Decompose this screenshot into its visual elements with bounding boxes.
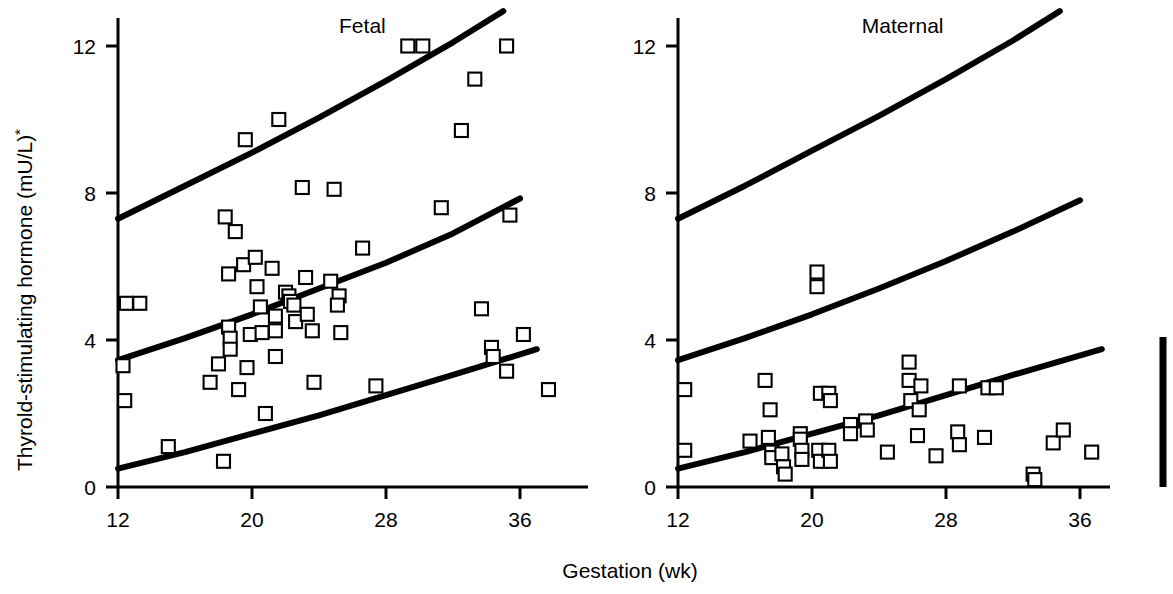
data-point — [269, 310, 282, 323]
tsh-gestation-figure: 0481212202836Fetal0481212202836MaternalT… — [0, 0, 1173, 594]
y-tick-label-fetal-8: 8 — [84, 182, 96, 205]
data-point — [229, 225, 242, 238]
data-point — [517, 328, 530, 341]
data-point — [256, 326, 269, 339]
data-point — [542, 383, 555, 396]
y-tick-label-maternal-12: 12 — [633, 35, 656, 58]
data-point — [911, 429, 924, 442]
median-reference-curve-maternal — [678, 200, 1080, 360]
data-point — [764, 403, 777, 416]
data-point — [678, 383, 691, 396]
data-point — [266, 262, 279, 275]
data-point — [824, 394, 837, 407]
data-points-fetal — [117, 40, 556, 468]
data-point — [296, 181, 309, 194]
data-point — [249, 251, 262, 264]
y-tick-label-fetal-12: 12 — [73, 35, 96, 58]
panel-maternal: 0481212202836Maternal — [633, 11, 1110, 531]
upper-reference-curve-maternal — [678, 11, 1060, 219]
data-point — [475, 302, 488, 315]
x-tick-label-fetal-12: 12 — [106, 508, 129, 531]
data-point — [117, 359, 130, 372]
data-point — [241, 361, 254, 374]
y-tick-label-fetal-4: 4 — [84, 329, 96, 352]
data-point — [334, 326, 347, 339]
data-point — [324, 275, 337, 288]
x-tick-label-maternal-36: 36 — [1068, 508, 1091, 531]
data-point — [762, 431, 775, 444]
data-point — [299, 271, 312, 284]
data-point — [468, 73, 481, 86]
data-point — [779, 468, 792, 481]
data-point — [287, 299, 300, 312]
data-point — [503, 209, 516, 222]
data-point — [500, 365, 513, 378]
data-point — [416, 40, 429, 53]
panel-fetal: 0481212202836Fetal — [73, 11, 588, 531]
y-tick-label-fetal-0: 0 — [84, 476, 96, 499]
x-tick-label-maternal-28: 28 — [934, 508, 957, 531]
data-point — [978, 431, 991, 444]
lower-reference-curve-fetal — [118, 349, 537, 468]
panel-title-fetal: Fetal — [339, 14, 386, 37]
data-point — [913, 403, 926, 416]
data-point — [308, 376, 321, 389]
y-tick-label-maternal-4: 4 — [644, 329, 656, 352]
x-tick-label-fetal-20: 20 — [240, 508, 263, 531]
x-tick-label-maternal-12: 12 — [666, 508, 689, 531]
data-point — [120, 297, 133, 310]
data-point — [162, 440, 175, 453]
data-point — [269, 350, 282, 363]
y-tick-label-maternal-0: 0 — [644, 476, 656, 499]
data-point — [951, 425, 964, 438]
data-point — [259, 407, 272, 420]
data-point — [369, 379, 382, 392]
data-point — [204, 376, 217, 389]
data-point — [811, 280, 824, 293]
data-point — [251, 280, 264, 293]
data-point — [269, 324, 282, 337]
data-point — [232, 383, 245, 396]
x-tick-label-fetal-28: 28 — [374, 508, 397, 531]
data-point — [272, 113, 285, 126]
data-point — [222, 267, 235, 280]
data-point — [254, 300, 267, 313]
data-point — [811, 266, 824, 279]
y-axis-label: Thyrold-stimulating hormone (mU/L)* — [11, 129, 36, 471]
data-point — [881, 446, 894, 459]
x-tick-label-fetal-36: 36 — [508, 508, 531, 531]
data-point — [914, 379, 927, 392]
data-point — [930, 449, 943, 462]
data-point — [953, 379, 966, 392]
chart-svg: 0481212202836Fetal0481212202836MaternalT… — [0, 0, 1173, 594]
data-point — [1085, 446, 1098, 459]
data-point — [331, 299, 344, 312]
data-point — [328, 183, 341, 196]
data-point — [118, 394, 131, 407]
data-point — [844, 427, 857, 440]
data-point — [500, 40, 513, 53]
data-point — [356, 242, 369, 255]
data-point — [824, 455, 837, 468]
data-point — [301, 308, 314, 321]
data-point — [239, 133, 252, 146]
reference-curves-maternal — [678, 11, 1102, 469]
data-point — [455, 124, 468, 137]
data-point — [1057, 424, 1070, 437]
data-point — [795, 453, 808, 466]
data-point — [678, 444, 691, 457]
data-point — [990, 381, 1003, 394]
data-point — [1028, 473, 1041, 486]
panel-title-maternal: Maternal — [862, 14, 944, 37]
data-point — [953, 438, 966, 451]
x-tick-label-maternal-20: 20 — [800, 508, 823, 531]
data-point — [219, 210, 232, 223]
data-point — [759, 374, 772, 387]
data-point — [401, 40, 414, 53]
data-point — [306, 324, 319, 337]
data-point — [744, 435, 757, 448]
x-axis-label: Gestation (wk) — [562, 559, 697, 582]
data-point — [903, 356, 916, 369]
data-point — [487, 350, 500, 363]
upper-reference-curve-fetal — [118, 11, 503, 219]
